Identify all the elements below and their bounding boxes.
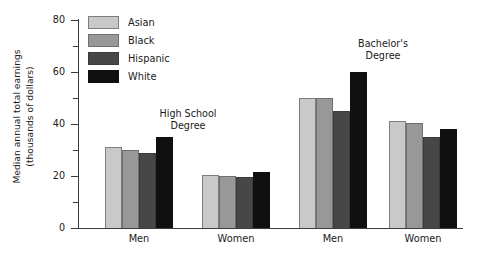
bar-asian-group-3 xyxy=(299,98,316,228)
y-tick-label: 60 xyxy=(17,67,65,77)
bar-white-group-2 xyxy=(253,172,270,228)
bar-white-group-3 xyxy=(350,72,367,228)
legend-swatch-black xyxy=(88,34,119,47)
legend-item-black[interactable]: Black xyxy=(88,31,203,49)
bar-asian-group-1 xyxy=(105,147,122,228)
legend-label-asian: Asian xyxy=(128,17,155,28)
legend-swatch-asian xyxy=(88,16,119,29)
legend-item-white[interactable]: White xyxy=(88,67,203,85)
annotation-bachelors-line2: Degree xyxy=(323,50,443,62)
bar-hispanic-group-3 xyxy=(333,111,350,228)
y-axis-line xyxy=(78,19,79,229)
legend-label-white: White xyxy=(128,71,157,82)
annotation-bachelors-line1: Bachelor's xyxy=(358,38,408,49)
legend-swatch-white xyxy=(88,70,119,83)
y-tick-major xyxy=(71,176,78,177)
annotation-high-school-line2: Degree xyxy=(128,120,248,132)
bar-white-group-4 xyxy=(440,129,457,228)
bar-asian-group-4 xyxy=(389,121,406,228)
y-tick-major xyxy=(71,20,78,21)
y-tick-label: 40 xyxy=(17,119,65,129)
legend-swatch-hispanic xyxy=(88,52,119,65)
bar-hispanic-group-2 xyxy=(236,177,253,228)
legend-label-black: Black xyxy=(128,35,155,46)
bar-chart-figure: Median annual total earnings (thousands … xyxy=(0,0,482,262)
x-tick-label-men-3: Men xyxy=(288,233,378,245)
y-tick-minor xyxy=(73,150,79,151)
legend-item-asian[interactable]: Asian xyxy=(88,13,203,31)
y-tick-label: 0 xyxy=(17,223,65,233)
annotation-high-school-degree: High School Degree xyxy=(128,108,248,133)
y-tick-minor xyxy=(73,46,79,47)
y-tick-minor xyxy=(73,98,79,99)
bar-black-group-2 xyxy=(219,176,236,228)
y-tick-major xyxy=(71,124,78,125)
y-tick-major xyxy=(71,72,78,73)
bar-black-group-1 xyxy=(122,150,139,228)
y-tick-minor xyxy=(73,202,79,203)
x-tick-label-women-4: Women xyxy=(378,233,468,245)
bar-white-group-1 xyxy=(156,137,173,228)
bar-asian-group-2 xyxy=(202,175,219,228)
bar-hispanic-group-4 xyxy=(423,137,440,228)
y-tick-major xyxy=(71,228,78,229)
legend-label-hispanic: Hispanic xyxy=(128,53,170,64)
y-tick-label: 20 xyxy=(17,171,65,181)
annotation-high-school-line1: High School xyxy=(160,108,217,119)
x-tick-label-men-1: Men xyxy=(94,233,184,245)
bar-black-group-3 xyxy=(316,98,333,228)
x-axis-line xyxy=(78,228,463,229)
y-axis-label: Median annual total earnings (thousands … xyxy=(0,0,46,232)
x-tick-label-women-2: Women xyxy=(191,233,281,245)
bar-black-group-4 xyxy=(406,123,423,228)
legend-item-hispanic[interactable]: Hispanic xyxy=(88,49,203,67)
bar-hispanic-group-1 xyxy=(139,153,156,228)
chart-legend: AsianBlackHispanicWhite xyxy=(88,13,203,85)
annotation-bachelors-degree: Bachelor's Degree xyxy=(323,38,443,63)
y-tick-label: 80 xyxy=(17,15,65,25)
